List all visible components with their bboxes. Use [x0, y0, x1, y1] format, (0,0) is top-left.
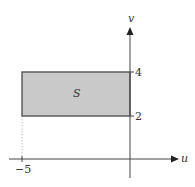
region-label-s: S — [73, 87, 81, 100]
uv-plane-diagram: v u 4 2 −5 S — [0, 0, 195, 187]
v-axis-arrow-icon — [127, 27, 134, 35]
v-axis-label: v — [128, 12, 135, 25]
u-axis-arrow-icon — [171, 156, 179, 163]
tick-label-v-4: 4 — [135, 66, 142, 79]
tick-label-v-2: 2 — [135, 110, 142, 123]
tick-label-u-neg5: −5 — [15, 163, 31, 176]
u-axis-label: u — [181, 152, 188, 165]
